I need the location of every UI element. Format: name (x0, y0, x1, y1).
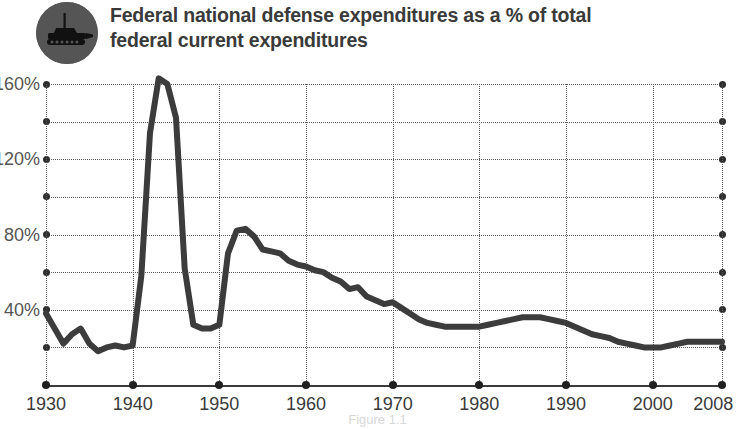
x-axis-tick (562, 381, 570, 389)
x-axis-tick (215, 381, 223, 389)
data-series-layer (46, 84, 722, 385)
y-axis-labels: 40%80%120%160% (0, 0, 40, 429)
y-axis-tick-label: 80% (4, 224, 40, 245)
x-axis-tick (389, 381, 397, 389)
x-axis-tick (649, 381, 657, 389)
x-axis-tick (475, 381, 483, 389)
y-axis-tick-label: 40% (4, 299, 40, 320)
x-axis-tick (42, 381, 50, 389)
x-axis-tick (129, 381, 137, 389)
y-axis-tick-label: 160% (0, 74, 40, 95)
y-axis-tick-label: 120% (0, 149, 40, 170)
figure-caption: Figure 1.1 (0, 412, 755, 427)
x-axis-line (46, 385, 722, 387)
line-chart: 40%80%120%160% 1930194019501960197019801… (0, 0, 755, 429)
series-line (46, 78, 722, 351)
x-axis-tick (302, 381, 310, 389)
x-axis-tick (718, 381, 726, 389)
